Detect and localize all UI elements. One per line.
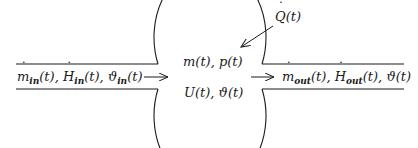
outflow-label: mout(t), Hout(t), ϑ(t)	[282, 70, 411, 86]
heat-flow-label: Q(t)	[275, 10, 301, 23]
vessel-state-mass-pressure: m(t), p(t)	[183, 55, 243, 68]
heat-arrow-icon	[241, 26, 273, 47]
inflow-label: min(t), Hin(t), ϑin(t)	[17, 70, 143, 86]
vessel-state-energy-temperature: U(t), ϑ(t)	[184, 86, 243, 99]
